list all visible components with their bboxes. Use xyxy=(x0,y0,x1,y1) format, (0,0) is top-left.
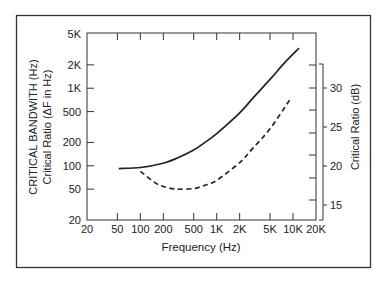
critical-ratio-curve xyxy=(140,100,289,189)
y-axis-label-2: Critical Ratio (ΔF in Hz) xyxy=(41,70,53,185)
plot-area xyxy=(87,33,316,220)
x-axis-ticks: 20501002005001K2K5K10K20K xyxy=(81,33,327,235)
y-tick-label: 500 xyxy=(63,106,81,118)
y-tick-label: 2K xyxy=(68,59,82,71)
y-tick-label: 20 xyxy=(69,214,81,226)
x-tick-label: 2K xyxy=(233,223,247,235)
x-tick-label: 50 xyxy=(111,223,123,235)
y-axis-label: CRITICAL BANDWITH (Hz) xyxy=(27,59,39,194)
right-tick-label: 20 xyxy=(330,160,342,172)
y-tick-label: 1K xyxy=(68,82,82,94)
right-tick-label: 25 xyxy=(330,121,342,133)
right-axis-label: Critical Ratio (dB) xyxy=(349,84,361,170)
y-tick-label: 50 xyxy=(69,183,81,195)
y-tick-label: 100 xyxy=(63,160,81,172)
x-tick-label: 10K xyxy=(283,223,303,235)
x-axis-label: Frequency (Hz) xyxy=(161,241,240,253)
x-tick-label: 500 xyxy=(185,223,203,235)
x-tick-label: 20 xyxy=(81,223,93,235)
x-tick-label: 20K xyxy=(306,223,326,235)
y-tick-label: 200 xyxy=(63,136,81,148)
right-tick-label: 15 xyxy=(330,199,342,211)
critical-bandwidth-curve xyxy=(119,48,299,169)
x-tick-label: 1K xyxy=(210,223,224,235)
y-tick-label: 5K xyxy=(68,28,82,40)
right-axis-ticks: 15202530 xyxy=(309,64,342,220)
critical-bandwidth-chart: 20501002005001K2K5K10K20K 20501002005001… xyxy=(0,0,385,282)
right-tick-label: 30 xyxy=(330,82,342,94)
right-axis-line xyxy=(319,64,323,220)
x-tick-label: 100 xyxy=(131,223,149,235)
y-axis-ticks: 20501002005001K2K5K xyxy=(63,28,94,226)
data-series xyxy=(119,48,299,189)
x-tick-label: 5K xyxy=(263,223,277,235)
x-tick-label: 200 xyxy=(154,223,172,235)
